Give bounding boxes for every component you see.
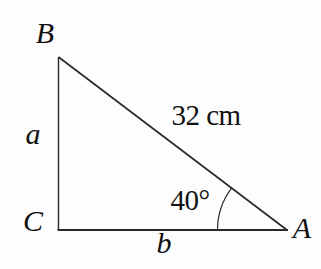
triangle-diagram: B C A a b 32 cm 40° (0, 0, 321, 269)
hypotenuse-length-label: 32 cm (171, 101, 240, 130)
side-label-a: a (26, 119, 41, 149)
angle-label: 40° (170, 186, 209, 215)
angle-arc (218, 188, 232, 230)
vertex-label-a: A (293, 213, 311, 243)
side-label-b: b (157, 228, 172, 258)
vertex-label-b: B (36, 18, 54, 48)
vertex-label-c: C (23, 206, 43, 236)
